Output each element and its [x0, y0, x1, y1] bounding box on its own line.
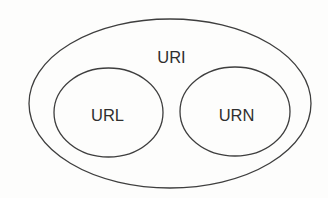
uri-venn-diagram: URI URL URN: [0, 0, 328, 198]
uri-ellipse: [29, 19, 311, 188]
urn-label: URN: [219, 106, 255, 124]
uri-label: URI: [157, 48, 185, 66]
url-label: URL: [91, 106, 124, 124]
